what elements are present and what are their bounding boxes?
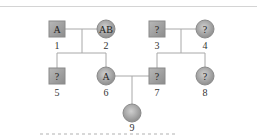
individual-number: 1 bbox=[55, 40, 60, 51]
individual-3-male: ? 3 bbox=[149, 21, 165, 51]
genotype-label: ? bbox=[155, 24, 160, 35]
genotype-label: A bbox=[53, 24, 61, 35]
individual-number: 9 bbox=[130, 122, 135, 133]
genotype-label: ? bbox=[55, 71, 60, 82]
individual-1-male: A 1 bbox=[49, 21, 65, 51]
genotype-label: ? bbox=[155, 71, 160, 82]
individual-6-female: A 6 bbox=[97, 67, 115, 98]
individual-8-female: ? 8 bbox=[196, 67, 214, 98]
individual-4-female: ? 4 bbox=[196, 20, 214, 51]
individual-number: 3 bbox=[155, 40, 160, 51]
genotype-label: ? bbox=[203, 71, 208, 82]
individual-number: 4 bbox=[203, 40, 208, 51]
cut-off-caption-text bbox=[40, 133, 175, 135]
individual-number: 5 bbox=[55, 87, 60, 98]
connector-lines bbox=[57, 29, 205, 104]
individual-number: 2 bbox=[104, 40, 109, 51]
pedigree-chart: A 1 AB 2 ? 3 ? 4 ? 5 A 6 ? 7 ? 8 bbox=[0, 0, 257, 140]
individual-number: 6 bbox=[104, 87, 109, 98]
genotype-label: ? bbox=[203, 24, 208, 35]
individual-number: 7 bbox=[155, 87, 160, 98]
genotype-label: A bbox=[102, 71, 110, 82]
individual-number: 8 bbox=[203, 87, 208, 98]
individual-9-female: 9 bbox=[123, 104, 141, 133]
individual-2-female: AB 2 bbox=[97, 20, 115, 51]
genotype-label: AB bbox=[99, 24, 113, 35]
individual-5-male: ? 5 bbox=[49, 68, 65, 98]
individual-7-male: ? 7 bbox=[149, 68, 165, 98]
